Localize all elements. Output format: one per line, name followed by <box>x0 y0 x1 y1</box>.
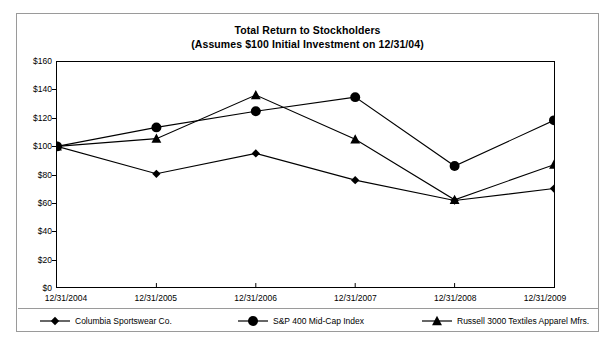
y-axis-tick-label: $20 <box>17 255 52 264</box>
legend-item[interactable]: Columbia Sportswear Co. <box>40 315 172 327</box>
data-point-marker <box>251 106 261 116</box>
x-axis-labels: 12/31/200412/31/200512/31/200612/31/2007… <box>17 293 598 307</box>
data-point-marker <box>151 122 161 132</box>
data-point-marker <box>549 115 554 125</box>
data-point-marker <box>251 90 261 99</box>
data-point-marker <box>549 160 554 169</box>
data-point-marker <box>550 184 554 192</box>
y-axis-tick-label: $140 <box>17 85 52 94</box>
data-point-marker <box>151 133 161 142</box>
data-point-marker <box>450 161 460 171</box>
series-diamond <box>57 142 554 204</box>
y-axis-tick-label: $40 <box>17 227 52 236</box>
chart-legend: Columbia Sportswear Co.S&P 400 Mid-Cap I… <box>18 308 599 332</box>
y-axis-tick-label: $120 <box>17 113 52 122</box>
x-axis-tick-label: 12/31/2008 <box>434 293 477 303</box>
legend-item[interactable]: S&P 400 Mid-Cap Index <box>238 315 364 327</box>
plot-area <box>56 61 555 288</box>
legend-item[interactable]: Russell 3000 Textiles Apparel Mfrs. <box>422 315 589 327</box>
y-axis-labels: $0$20$40$60$80$100$120$140$160 <box>17 61 52 288</box>
x-axis-tick-label: 12/31/2006 <box>234 293 277 303</box>
y-axis-tick-label: $0 <box>17 284 52 293</box>
chart-frame: Total Return to Stockholders (Assumes $1… <box>16 13 599 332</box>
series-line <box>57 95 554 200</box>
data-point-marker <box>252 149 260 157</box>
data-point-marker <box>350 134 360 143</box>
data-point-marker <box>351 176 359 184</box>
legend-label: Columbia Sportswear Co. <box>75 316 172 326</box>
legend-marker-circle-icon <box>238 315 268 327</box>
chart-subtitle: (Assumes $100 Initial Investment on 12/3… <box>17 37 598 51</box>
x-axis-tick-label: 12/31/2005 <box>135 293 178 303</box>
y-axis-tick-label: $100 <box>17 142 52 151</box>
chart-screenshot: Total Return to Stockholders (Assumes $1… <box>0 0 614 345</box>
legend-label: Russell 3000 Textiles Apparel Mfrs. <box>457 316 589 326</box>
chart-title: Total Return to Stockholders <box>17 23 598 37</box>
series-line <box>57 97 554 166</box>
legend-label: S&P 400 Mid-Cap Index <box>273 316 364 326</box>
series-triangle <box>57 90 554 204</box>
data-point-marker <box>152 170 160 178</box>
series-plot <box>57 62 554 287</box>
y-axis-tick-label: $60 <box>17 198 52 207</box>
legend-marker-diamond-icon <box>40 315 70 327</box>
x-axis-tick-label: 12/31/2009 <box>524 293 567 303</box>
data-point-marker <box>350 92 360 102</box>
legend-marker-triangle-icon <box>422 315 452 327</box>
series-circle <box>57 92 554 171</box>
x-axis-tick-label: 12/31/2004 <box>45 293 88 303</box>
chart-title-block: Total Return to Stockholders (Assumes $1… <box>17 23 598 51</box>
x-axis-tick-label: 12/31/2007 <box>334 293 377 303</box>
y-axis-tick-label: $80 <box>17 170 52 179</box>
y-axis-tick-label: $160 <box>17 57 52 66</box>
